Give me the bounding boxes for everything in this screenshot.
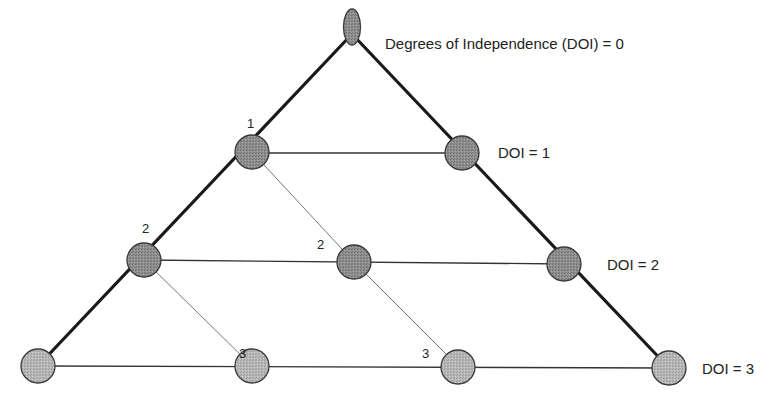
doi-pyramid-diagram: Degrees of Independence (DOI) = 0 DOI = … (0, 0, 775, 402)
edge-left-side (38, 34, 352, 366)
node-number-label: 3 (422, 346, 429, 361)
edge-level3 (38, 366, 669, 368)
node-l3-4 (652, 351, 686, 385)
diagonal-edges (144, 152, 458, 366)
node-l1-right (445, 136, 479, 170)
edge-diag-3 (354, 262, 458, 366)
node-number-label: 2 (142, 221, 149, 236)
doi-2-label: DOI = 2 (607, 256, 659, 273)
doi-3-label: DOI = 3 (702, 360, 754, 377)
node-number-label: 1 (247, 116, 254, 131)
node-l3-3 (441, 350, 475, 384)
node-number-label: 2 (317, 237, 324, 252)
doi-1-label: DOI = 1 (498, 144, 550, 161)
node-l2-right (547, 247, 581, 281)
doi-0-label: Degrees of Independence (DOI) = 0 (385, 35, 624, 52)
edge-right-side (352, 34, 669, 368)
edge-diag-1 (252, 152, 354, 262)
edge-diag-2 (144, 260, 252, 366)
node-root (344, 9, 361, 45)
node-l3-1 (21, 349, 55, 383)
node-number-label: 3 (239, 346, 246, 361)
node-l1-left (235, 135, 269, 169)
outer-edges (38, 34, 669, 368)
node-l2-mid (337, 245, 371, 279)
nodes (21, 9, 686, 385)
node-l2-left (127, 243, 161, 277)
